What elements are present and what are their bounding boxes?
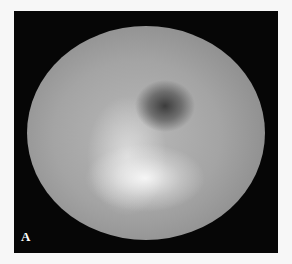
circular-field-of-view (27, 26, 265, 240)
image-panel: A (14, 11, 278, 253)
panel-label: A (21, 229, 30, 245)
